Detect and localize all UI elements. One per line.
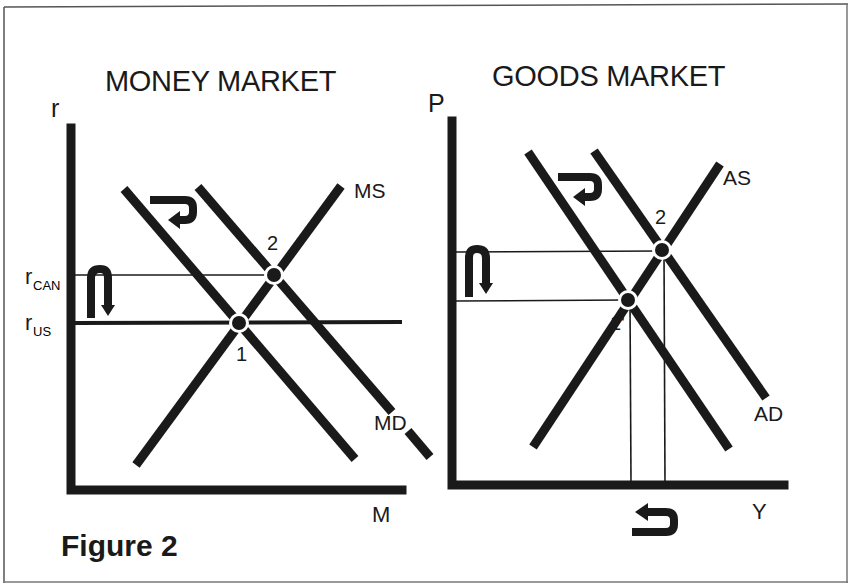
money-market-x-axis-label: M <box>372 502 390 527</box>
output-2-guide-line <box>664 252 665 483</box>
money-point-1-label: 1 <box>236 343 247 365</box>
r-us-label: r US <box>25 310 51 339</box>
goods-market-y-axis-label: P <box>428 89 445 117</box>
goods-market-title: GOODS MARKET <box>492 60 726 92</box>
md-label: MD <box>374 411 407 434</box>
rate-fall-arrow-icon <box>91 269 115 318</box>
goods-point-2-label: 2 <box>655 206 666 228</box>
goods-market-x-axis-label: Y <box>752 499 767 524</box>
money-point-2-label: 2 <box>267 232 278 254</box>
goods-point-2 <box>655 243 669 257</box>
as-label: AS <box>723 166 751 189</box>
goods-point-1 <box>621 293 635 307</box>
money-point-1 <box>232 316 246 330</box>
money-market-axes <box>71 128 402 490</box>
md-curve-shifted <box>198 187 392 412</box>
ad-label: AD <box>754 402 783 425</box>
figure-canvas: MONEY MARKET r M r CAN r US MS MD 2 <box>0 0 849 585</box>
output-fall-arrow-icon <box>632 503 674 532</box>
svg-text:r: r <box>25 264 32 289</box>
goods-point-1-label: 1' <box>610 312 625 334</box>
price-1-guide-line <box>456 300 626 301</box>
money-market-y-axis-label: r <box>51 94 59 122</box>
r-can-label: r CAN <box>25 264 60 293</box>
output-1-guide-line <box>630 302 631 483</box>
ms-label: MS <box>354 179 386 202</box>
goods-market-panel: GOODS MARKET P Y AS AD 2 1' <box>428 60 784 532</box>
svg-text:US: US <box>33 324 51 339</box>
md-curve-shifted-tail <box>408 431 430 457</box>
money-market-title: MONEY MARKET <box>105 65 337 97</box>
price-fall-arrow-icon <box>469 249 493 297</box>
figure-caption: Figure 2 <box>61 529 178 562</box>
svg-text:CAN: CAN <box>33 278 60 293</box>
money-point-2 <box>267 268 281 282</box>
svg-text:r: r <box>25 310 32 335</box>
money-market-panel: MONEY MARKET r M r CAN r US MS MD 2 <box>25 65 430 527</box>
